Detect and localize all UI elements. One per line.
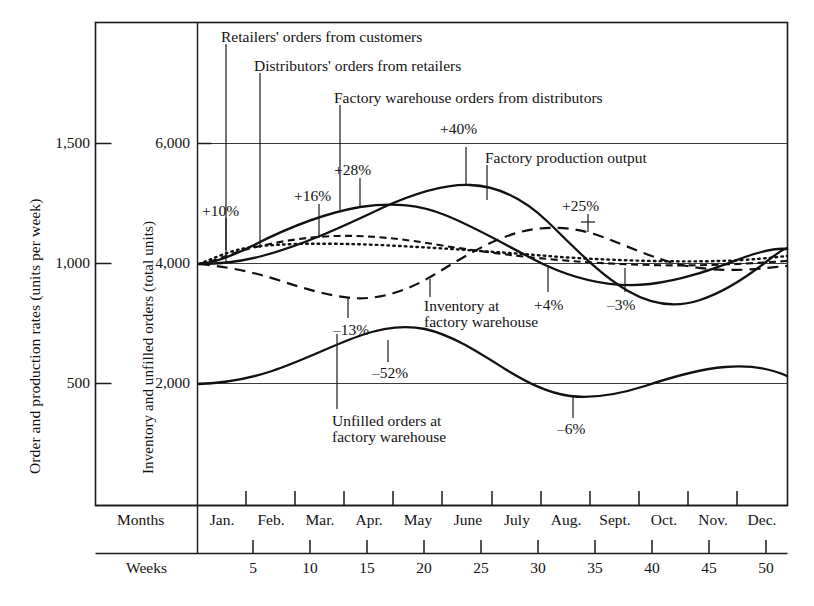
pct-label-minus-13: –13% [333, 321, 369, 339]
tick-label-2000: 2,000 [118, 374, 190, 392]
month-label-july: July [504, 511, 530, 529]
series-factory-warehouse-orders [199, 205, 787, 285]
week-label-30: 30 [530, 559, 546, 577]
series-distributors-orders [199, 236, 787, 266]
pct-label-plus-25: +25% [562, 197, 599, 215]
callout-unfilled-orders-line1: Unfilled orders at [332, 412, 441, 429]
month-label-apr: Apr. [355, 511, 382, 529]
month-label-june: June [454, 511, 482, 529]
month-label-jan: Jan. [210, 511, 235, 529]
left-axis-title: Order and production rates (units per we… [26, 199, 44, 474]
week-label-45: 45 [701, 559, 717, 577]
callout-inventory-at-line2: factory warehouse [424, 313, 538, 330]
week-label-35: 35 [587, 559, 603, 577]
weeks-row-label: Weeks [126, 559, 167, 577]
week-label-10: 10 [302, 559, 318, 577]
pct-label-plus-28: +28% [334, 161, 371, 179]
week-label-25: 25 [473, 559, 489, 577]
callout-factory-warehouse-orders: Factory warehouse orders from distributo… [334, 89, 603, 106]
pct-label-plus-4: +4% [534, 296, 563, 314]
series-retailers-orders [199, 244, 787, 264]
month-label-aug: Aug. [551, 511, 582, 529]
callout-factory-production-output: Factory production output [485, 149, 647, 166]
tick-label-500: 500 [18, 374, 90, 392]
week-label-20: 20 [416, 559, 432, 577]
callout-distributors-orders: Distributors' orders from retailers [254, 57, 461, 74]
month-label-feb: Feb. [257, 511, 284, 529]
pct-label-plus-16: +16% [294, 187, 331, 205]
month-tickmarks [246, 491, 737, 505]
month-label-sept: Sept. [599, 511, 630, 529]
tick-label-1000: 1,000 [18, 254, 90, 272]
callout-unfilled-orders-line2: factory warehouse [332, 428, 446, 445]
tick-label-6000: 6,000 [118, 134, 190, 152]
months-row-label: Months [117, 511, 164, 529]
chart-figure: Order and production rates (units per we… [0, 0, 814, 606]
series-unfilled-orders-at-factory-warehouse [199, 327, 787, 397]
tick-label-1500: 1,500 [18, 134, 90, 152]
tick-label-4000: 4,000 [118, 254, 190, 272]
pct-label-minus-3: –3% [607, 296, 635, 314]
callout-retailers-orders: Retailers' orders from customers [221, 28, 422, 45]
week-tickmarks [253, 540, 766, 553]
month-label-oct: Oct. [651, 511, 677, 529]
month-label-dec: Dec. [748, 511, 777, 529]
pct-label-plus-10: +10% [202, 202, 239, 220]
week-label-50: 50 [758, 559, 774, 577]
week-label-15: 15 [359, 559, 375, 577]
month-label-may: May [404, 511, 432, 529]
series-factory-production-output [199, 185, 787, 304]
month-label-nov: Nov. [698, 511, 728, 529]
week-label-5: 5 [249, 559, 257, 577]
pct-label-minus-52: –52% [372, 364, 408, 382]
callout-inventory-at-line1: Inventory at [424, 297, 499, 314]
month-label-mar: Mar. [306, 511, 335, 529]
week-label-40: 40 [644, 559, 660, 577]
pct-label-plus-40: +40% [440, 120, 477, 138]
pct-label-minus-6: –6% [557, 420, 585, 438]
